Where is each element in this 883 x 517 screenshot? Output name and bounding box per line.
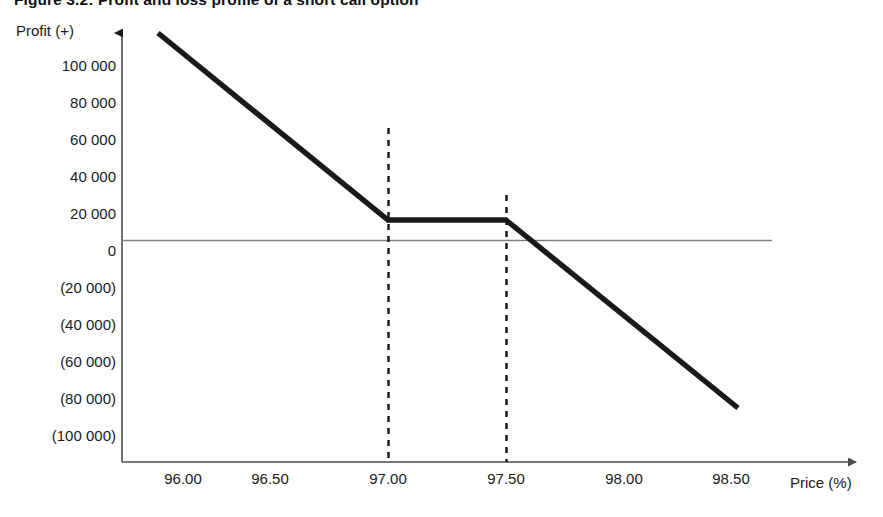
profit-loss-payoff-line — [158, 33, 738, 408]
figure-container: Figure 3.2: Profit and loss profile of a… — [0, 0, 883, 517]
plot-area — [0, 0, 883, 517]
